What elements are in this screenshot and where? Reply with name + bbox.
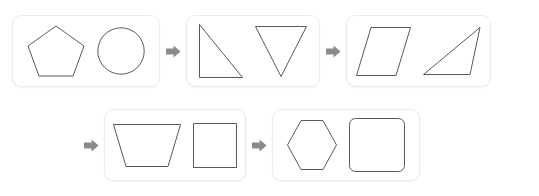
inverted-triangle-shape xyxy=(254,25,308,78)
shape-card-2[interactable] xyxy=(186,15,320,87)
right-arrow-icon xyxy=(320,41,346,61)
flow-row-top xyxy=(0,8,539,94)
shape-card-5[interactable] xyxy=(272,109,420,181)
trapezoid-shape xyxy=(112,123,182,168)
shape-group-5 xyxy=(286,117,406,173)
right-arrow-icon xyxy=(78,135,104,155)
shape-card-3[interactable] xyxy=(346,15,491,87)
circle-shape xyxy=(96,26,146,76)
parallelogram-shape xyxy=(355,26,412,77)
right-arrow-icon xyxy=(246,135,272,155)
right-triangle-shape xyxy=(198,23,244,79)
pentagon-shape xyxy=(26,23,86,79)
right-arrow-icon xyxy=(160,41,186,61)
shape-sequence-diagram xyxy=(0,0,539,196)
shape-group-1 xyxy=(26,23,146,79)
square-shape xyxy=(192,122,238,169)
shape-group-4 xyxy=(112,122,238,169)
shape-card-1[interactable] xyxy=(12,15,160,87)
shape-group-3 xyxy=(355,26,482,77)
hexagon-shape xyxy=(286,119,338,171)
shape-card-4[interactable] xyxy=(104,109,246,181)
rounded-square-shape xyxy=(348,117,406,173)
shape-group-2 xyxy=(198,23,308,79)
scalene-triangle-shape xyxy=(422,26,482,76)
flow-row-bottom xyxy=(0,102,539,188)
